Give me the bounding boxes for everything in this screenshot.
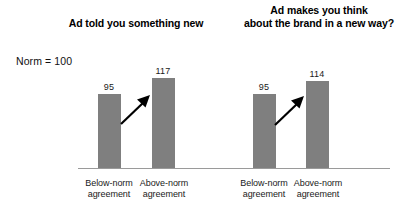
category-label-panel-1-below-norm: Below-norm agreement [78, 178, 140, 200]
axis-baseline [78, 168, 390, 169]
norm-reference-label: Norm = 100 [16, 55, 72, 67]
bar-panel-1-below-norm [98, 94, 121, 168]
growth-arrow-panel-2-icon [273, 95, 307, 127]
value-label-panel-1-above-norm: 117 [148, 66, 178, 76]
category-label-panel-2-below-norm: Below-norm agreement [233, 178, 295, 200]
panel-2-title: Ad makes you think about the brand in a … [226, 4, 412, 29]
value-label-panel-2-below-norm: 95 [249, 82, 279, 92]
panel-1-title: Ad told you something new [44, 17, 228, 30]
value-label-panel-2-above-norm: 114 [302, 69, 332, 79]
chart-canvas: Ad told you something new Ad makes you t… [0, 0, 414, 216]
bar-panel-2-above-norm [306, 81, 329, 168]
bar-panel-1-above-norm [152, 78, 175, 168]
category-label-panel-1-above-norm: Above-norm agreement [133, 178, 195, 200]
value-label-panel-1-below-norm: 95 [94, 82, 124, 92]
category-label-panel-2-above-norm: Above-norm agreement [287, 178, 349, 200]
growth-arrow-panel-1-icon [119, 94, 153, 126]
